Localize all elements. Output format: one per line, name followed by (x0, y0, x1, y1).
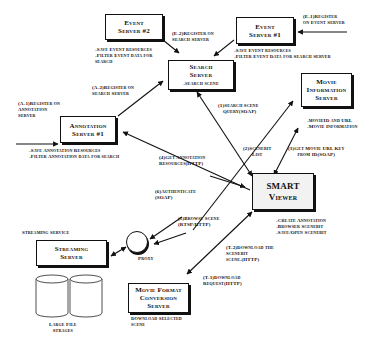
edge-label-line: (SOAP) (155, 195, 196, 201)
edge-label-a1: (A-1)Register on Annotation Server (18, 101, 60, 119)
edge-label-s2: (2)Scenebit List (243, 146, 271, 158)
edge-label-line: Search Server (172, 37, 214, 43)
movie-format-title-3: Server (147, 302, 169, 310)
edge-label-line: scene.(HTTP) (226, 257, 274, 263)
edge-label-s4: (4)Get Annotation Resources(HTTP) (159, 155, 205, 167)
smart-viewer-title-1: SMART (266, 181, 299, 192)
movie-format-conversion-server-node: Movie Format Conversion Server (128, 283, 189, 313)
movie-format-notes: Download Selected scene (131, 316, 182, 328)
proxy-node (126, 231, 148, 253)
event-server-2-title-1: Event (124, 19, 144, 27)
event-server-1-title-1: Event (255, 23, 275, 31)
streaming-server-node: Streaming Server (36, 240, 107, 266)
edge-label-line: List (243, 152, 271, 158)
movie-info-title-3: Server (315, 94, 337, 102)
event-server-1-title-2: Server #1 (249, 31, 281, 39)
large-file-storages-label: Large File Strages (49, 322, 77, 334)
search-server-node: Search Server -search scene (168, 60, 234, 90)
event-server-1-notes: -Save Event resources -Filter Event Data… (234, 48, 331, 60)
edge-label-s6: (6)Authenticate (SOAP) (155, 189, 196, 201)
edge-label-s5: (5)Browse Scene (RTSP/HTTP) (178, 216, 219, 228)
edge-label-line: Query(SOAP) (218, 109, 258, 115)
edge-label-s3: (3)Get Movie URL Key from ID(SOAP) (288, 146, 344, 158)
note-line: -Movie Information (307, 124, 357, 130)
edge-label-line: Request(HTTP) (203, 281, 242, 287)
movie-info-notes: -movieID and URL -Movie Information (307, 118, 357, 130)
streaming-server-title-2: Server (60, 253, 82, 261)
event-server-2-notes: -Save Event resources -Filter Event data… (95, 47, 152, 65)
search-server-subtitle: -search scene (183, 80, 219, 87)
edge-label-line: Server (18, 113, 60, 119)
note-line: scene (131, 322, 182, 328)
movie-info-title-1: Movie (316, 78, 336, 86)
streaming-service-label: Streaming Service (22, 230, 69, 236)
smart-viewer-notes: -Create Annotation -Browser Scenebit -Sa… (276, 218, 327, 236)
note-line: search (95, 59, 152, 65)
movie-information-server-node: Movie Information Server (301, 73, 352, 107)
note-line: -Filter Annotation data for search (29, 154, 119, 160)
annotation-server-1-node: Annotation Server #1 (60, 116, 116, 143)
storage-label-line: Strages (49, 328, 77, 334)
movie-info-title-2: Information (307, 86, 347, 94)
annotation-server-notes: -Save Annotation Resources -Filter Annot… (29, 148, 119, 160)
edge-label-line: on Event Server (303, 20, 345, 26)
smart-viewer-title-2: Viewer (269, 192, 297, 203)
event-server-1-node: Event Server #1 (236, 17, 294, 44)
search-server-title-2: Server (190, 71, 212, 79)
annotation-server-title-2: Server #1 (72, 130, 104, 138)
note-line: -Save/Open Scenebit (276, 230, 327, 236)
movie-format-title-2: Conversion (140, 294, 177, 302)
smart-viewer-node: SMART Viewer (252, 173, 314, 210)
event-server-2-title-2: Server #2 (118, 27, 150, 35)
event-server-2-node: Event Server #2 (105, 14, 163, 40)
architecture-diagram: Event Server #2 -Save Event resources -F… (0, 0, 379, 348)
edge-label-line: from ID(SOAP) (288, 152, 344, 158)
proxy-label: Proxy (138, 256, 154, 262)
storage-cylinders-icon (34, 273, 104, 319)
note-line: -Filter Event Data for Search Server (234, 54, 331, 60)
edge-label-s1: (1)Search Scene Query(SOAP) (218, 103, 258, 115)
edge-label-line: (RTSP/HTTP) (178, 222, 219, 228)
edge-label-t2: (T-2)Download the Scenebit scene.(HTTP) (226, 245, 274, 263)
search-server-title-1: Search (189, 63, 212, 71)
movie-format-title-1: Movie Format (135, 286, 182, 294)
edge-label-t1: (T-1)Download Request(HTTP) (203, 275, 242, 287)
edge-label-line: Search Server (92, 91, 134, 97)
streaming-server-title-1: Streaming (55, 245, 89, 253)
edge-label-e1: (E-1)Register on Event Server (303, 14, 345, 26)
edge-label-e2: (E-2)Register on Search Server (172, 31, 214, 43)
edge-label-a2: (A-2)Register on Search Server (92, 85, 134, 97)
edge-label-line: Resources(HTTP) (159, 161, 205, 167)
annotation-server-title-1: Annotation (69, 122, 106, 130)
